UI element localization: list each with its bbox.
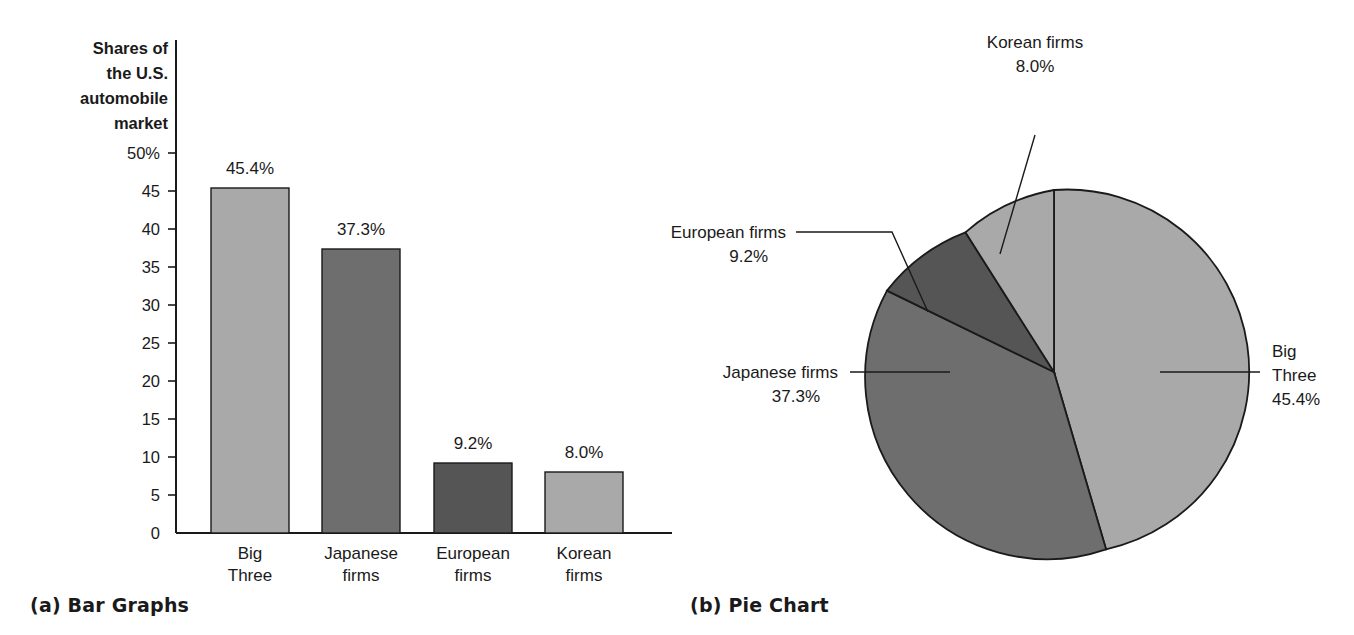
- y-tick-label-15: 15: [142, 410, 160, 428]
- bar-chart-panel: Shares of the U.S. automobile market 50%…: [0, 0, 690, 635]
- x-label-japanese-firms-line-1: Japanese: [324, 544, 398, 563]
- y-axis-title-line-3: automobile: [80, 89, 168, 107]
- x-axis-category-labels: Big Three Japanese firms European firms …: [228, 544, 612, 585]
- y-tick-label-50: 50%: [127, 144, 160, 162]
- bar-value-label-korean-firms: 8.0%: [565, 443, 604, 462]
- bar-value-label-european-firms: 9.2%: [454, 434, 493, 453]
- y-axis-title: Shares of the U.S. automobile market: [80, 39, 169, 132]
- x-label-european-firms-line-1: European: [436, 544, 510, 563]
- pie-callout-big-three-line-3: 45.4%: [1272, 390, 1320, 409]
- x-label-japanese-firms-line-2: firms: [343, 566, 380, 585]
- pie-callout-korean-firms: Korean firms 8.0%: [987, 33, 1083, 76]
- y-tick-label-5: 5: [151, 486, 160, 504]
- pie-callout-korean-firms-line-2: 8.0%: [1016, 57, 1055, 76]
- y-tick-label-25: 25: [142, 334, 160, 352]
- bar-european-firms[interactable]: [434, 463, 512, 533]
- pie-chart-svg: Big Three 45.4% Japanese firms 37.3% Eur…: [660, 0, 1354, 590]
- pie-callout-japanese-firms-line-1: Japanese firms: [723, 363, 838, 382]
- y-axis-title-line-2: the U.S.: [107, 64, 168, 82]
- bar-value-label-big-three: 45.4%: [226, 159, 274, 178]
- bar-chart-svg: Shares of the U.S. automobile market 50%…: [0, 0, 690, 590]
- y-tick-label-45: 45: [142, 182, 160, 200]
- y-tick-label-0: 0: [151, 524, 160, 542]
- pie-chart-panel: Big Three 45.4% Japanese firms 37.3% Eur…: [660, 0, 1354, 635]
- pie-callout-european-firms-line-1: European firms: [671, 223, 786, 242]
- pie-callout-big-three-line-2: Three: [1272, 366, 1316, 385]
- x-label-korean-firms-line-2: firms: [566, 566, 603, 585]
- x-label-big-three-line-1: Big: [238, 544, 263, 563]
- bar-big-three[interactable]: [211, 188, 289, 533]
- figure-container: Shares of the U.S. automobile market 50%…: [0, 0, 1354, 635]
- y-axis-title-line-4: market: [114, 114, 169, 132]
- pie-callout-japanese-firms-line-2: 37.3%: [772, 387, 820, 406]
- x-label-european-firms-line-2: firms: [455, 566, 492, 585]
- y-tick-label-20: 20: [142, 372, 160, 390]
- x-label-korean-firms-line-1: Korean: [557, 544, 612, 563]
- y-tick-label-10: 10: [142, 448, 160, 466]
- pie-callout-european-firms: European firms 9.2%: [671, 223, 786, 266]
- bar-value-label-japanese-firms: 37.3%: [337, 220, 385, 239]
- y-axis-ticks: 50% 45 40 35 30 25 20 15 10 5: [127, 144, 176, 542]
- panel-a-caption: (a) Bar Graphs: [30, 594, 189, 616]
- pie-callout-japanese-firms: Japanese firms 37.3%: [723, 363, 838, 406]
- x-label-big-three-line-2: Three: [228, 566, 272, 585]
- pie-callout-big-three: Big Three 45.4%: [1272, 342, 1320, 409]
- y-tick-label-35: 35: [142, 258, 160, 276]
- y-tick-label-40: 40: [142, 220, 160, 238]
- y-tick-label-30: 30: [142, 296, 160, 314]
- bar-series: [211, 188, 623, 533]
- bar-korean-firms[interactable]: [545, 472, 623, 533]
- pie-callout-korean-firms-line-1: Korean firms: [987, 33, 1083, 52]
- y-axis-title-line-1: Shares of: [93, 39, 169, 57]
- bar-japanese-firms[interactable]: [322, 249, 400, 533]
- pie-callout-big-three-line-1: Big: [1272, 342, 1297, 361]
- panel-b-caption: (b) Pie Chart: [690, 594, 829, 616]
- pie-callout-european-firms-line-2: 9.2%: [729, 247, 768, 266]
